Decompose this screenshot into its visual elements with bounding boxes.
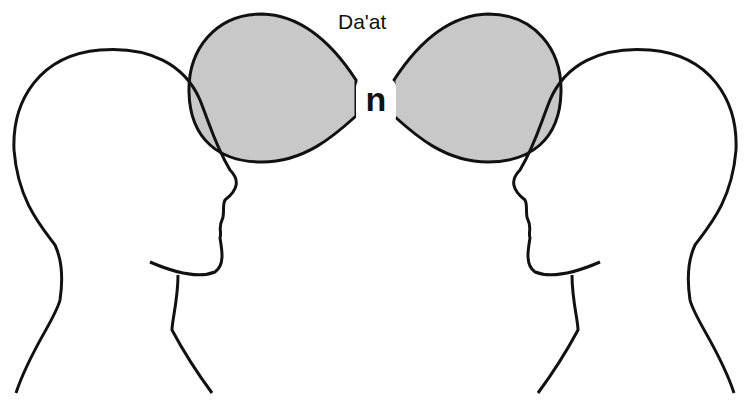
daat-title: Da'at <box>338 10 386 34</box>
daat-diagram: Da'at n <box>0 0 750 403</box>
center-glyph: n <box>356 79 396 125</box>
diagram-canvas <box>0 0 750 403</box>
